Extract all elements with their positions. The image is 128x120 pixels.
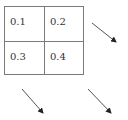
arrow-icon xyxy=(88,89,111,113)
arrow-icon xyxy=(22,89,43,113)
arrow-icon xyxy=(92,23,116,42)
arrows-layer xyxy=(0,0,128,120)
